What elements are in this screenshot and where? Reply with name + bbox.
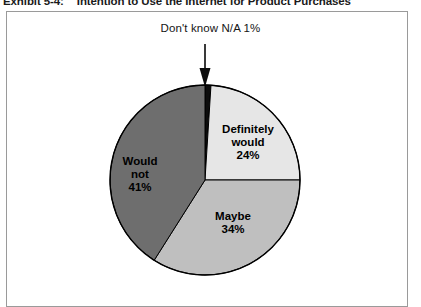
- slice-label-would-not-line1: Would: [123, 155, 158, 167]
- slice-label-would-not-line2: not: [131, 168, 149, 180]
- slice-label-maybe-line1: Maybe: [215, 210, 251, 222]
- slice-label-maybe: Maybe 34%: [196, 210, 270, 236]
- slice-label-definitely-would-line1: Definitely: [222, 123, 274, 135]
- slice-label-maybe-pct: 34%: [196, 223, 270, 236]
- slice-label-definitely-would-pct: 24%: [206, 149, 290, 162]
- slice-label-definitely-would: Definitely would 24%: [206, 123, 290, 162]
- slice-label-would-not: Would not 41%: [104, 155, 176, 194]
- slice-label-definitely-would-line2: would: [231, 136, 264, 148]
- slice-label-would-not-pct: 41%: [104, 181, 176, 194]
